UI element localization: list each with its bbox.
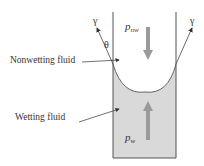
capillary-diagram: γ γ θ pnw pw Nonwetting fluid Wetting fl… [0,0,204,166]
theta-label: θ [104,39,109,50]
gamma-right-vector [176,28,192,64]
p-nw-label: pnw [125,20,139,34]
p-w-label: pw [125,131,135,145]
p-nw-arrow [143,27,153,60]
wetting-fluid-label: Wetting fluid [15,112,65,122]
p-w-subscript: w [131,137,136,145]
gamma-left-label: γ [93,15,97,26]
gamma-right-label: γ [190,15,194,26]
p-nw-subscript: nw [131,26,139,34]
diagram-graphics [0,0,204,166]
nonwetting-fluid-label: Nonwetting fluid [10,55,75,65]
